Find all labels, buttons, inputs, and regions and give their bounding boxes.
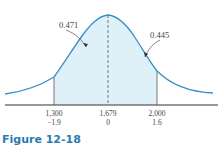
normal-curve-chart: 0.471 0.445 1,300 −1.9 1,679 0 2,000 1.6 [0, 0, 218, 149]
tick-left-z: −1.9 [47, 118, 61, 127]
normal-distribution-figure: 0.471 0.445 1,300 −1.9 1,679 0 2,000 1.6… [0, 0, 218, 149]
tick-mid-z: 0 [106, 118, 110, 127]
figure-caption: Figure 12-18 [2, 133, 81, 146]
tick-right-value: 2,000 [149, 109, 166, 118]
tick-mid-value: 1,679 [100, 109, 117, 118]
left-area-label: 0.471 [59, 20, 78, 30]
tick-left-value: 1,300 [46, 109, 63, 118]
right-area-label: 0.445 [150, 30, 169, 40]
tick-right-z: 1.6 [152, 118, 162, 127]
